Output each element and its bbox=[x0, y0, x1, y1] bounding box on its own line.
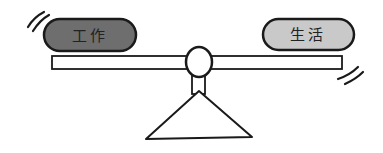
life-block: 生活 bbox=[263, 19, 354, 50]
work-label: 工作 bbox=[72, 27, 108, 45]
pivot-circle bbox=[186, 47, 212, 77]
life-label: 生活 bbox=[290, 26, 326, 44]
balance-scale-diagram: 工作 生活 bbox=[0, 0, 383, 153]
work-block: 工作 bbox=[44, 19, 136, 51]
scale-base-triangle bbox=[146, 91, 252, 139]
